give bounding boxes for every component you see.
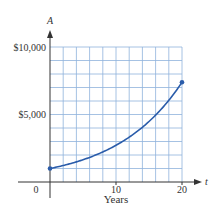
exponential-growth-chart: 01020$5,000$10,000 A t Years xyxy=(0,0,213,220)
x-axis-arrow-icon xyxy=(194,179,202,185)
x-axis-label: Years xyxy=(104,193,129,205)
tick-labels: 01020$5,000$10,000 xyxy=(14,42,188,196)
grid-lines xyxy=(50,47,182,182)
endpoint-marker xyxy=(48,166,53,171)
y-axis-arrow-icon xyxy=(47,30,53,38)
y-axis-variable: A xyxy=(46,15,54,26)
x-tick-label: 20 xyxy=(177,184,187,195)
y-tick-label: $10,000 xyxy=(14,42,47,53)
endpoint-marker xyxy=(180,80,185,85)
y-tick-label: $5,000 xyxy=(19,109,47,120)
x-axis-variable: t xyxy=(205,176,208,187)
x-tick-label: 0 xyxy=(34,184,39,195)
